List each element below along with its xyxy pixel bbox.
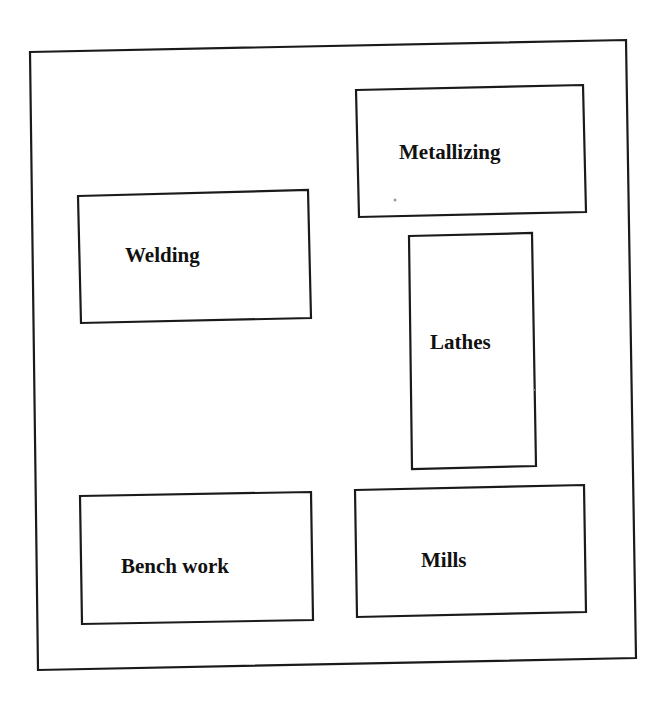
department-label: Mills [421, 548, 467, 572]
department-bench-work: Bench work [80, 492, 313, 624]
department-welding: Welding [78, 190, 311, 323]
facility-layout-diagram: Metallizing Welding Lathes Bench work Mi… [0, 0, 662, 701]
department-label: Bench work [121, 554, 229, 578]
department-label: Metallizing [399, 140, 501, 164]
scan-speck [533, 389, 535, 391]
scan-speck [394, 199, 397, 202]
department-label: Welding [125, 243, 200, 267]
department-lathes: Lathes [409, 233, 536, 469]
department-label: Lathes [430, 330, 491, 354]
department-mills: Mills [355, 485, 586, 617]
department-metallizing: Metallizing [356, 85, 586, 217]
department-box [355, 485, 586, 617]
